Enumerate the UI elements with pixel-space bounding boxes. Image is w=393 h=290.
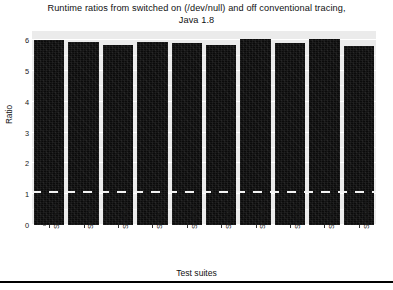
reference-line [32, 191, 376, 193]
x-axis-tick-mark [49, 225, 50, 228]
bottom-divider [0, 281, 393, 283]
y-axis-tick-label: 4 [13, 97, 29, 106]
x-axis-tick-mark [324, 225, 325, 228]
x-axis-label: Test suites [0, 268, 393, 278]
x-axis-tick-mark [221, 225, 222, 228]
x-axis-tick-label: SUITE5 [190, 203, 199, 229]
y-axis-tick-label: 2 [13, 159, 29, 168]
y-axis-tick-label: 6 [13, 36, 29, 45]
bar [103, 45, 133, 225]
x-axis-tick-label: SUITE6 [224, 203, 233, 229]
x-axis-tick-label: SUITE9 [327, 203, 336, 229]
bar [344, 46, 374, 225]
x-axis-tick-mark [290, 225, 291, 228]
x-axis-tick-label: SUITE4 [155, 203, 164, 229]
x-axis-tick-layer: SUITE1SUITE2SUITE3SUITE4SUITE5SUITE6SUIT… [32, 225, 376, 270]
bar [34, 40, 64, 225]
chart-title-line-2: Java 1.8 [0, 15, 393, 27]
x-axis-tick-label: SUITE8 [293, 203, 302, 229]
bar [172, 43, 202, 225]
x-axis-tick-label: SUITE2 [86, 203, 95, 229]
chart-title: Runtime ratios from switched on (/dev/nu… [0, 3, 393, 26]
chart-title-line-1: Runtime ratios from switched on (/dev/nu… [0, 3, 393, 15]
x-axis-tick-mark [84, 225, 85, 228]
bar [68, 42, 98, 225]
x-axis-tick-label: SUITE3 [121, 203, 130, 229]
y-axis-tick-label: 5 [13, 67, 29, 76]
plot-panel [32, 31, 376, 225]
chart-figure: Runtime ratios from switched on (/dev/nu… [0, 0, 393, 290]
x-axis-tick-mark [187, 225, 188, 228]
x-axis-tick-mark [152, 225, 153, 228]
y-axis-tick-label: 0 [13, 221, 29, 230]
x-axis-tick-label: SUITE1 [52, 203, 61, 229]
bar [137, 42, 167, 225]
bar [206, 45, 236, 225]
y-axis-tick-label: 3 [13, 128, 29, 137]
x-axis-tick-mark [118, 225, 119, 228]
x-axis-tick-mark [256, 225, 257, 228]
x-axis-tick-label: SUITE10 [362, 199, 371, 229]
bar [240, 39, 270, 225]
y-axis-tick-label: 1 [13, 190, 29, 199]
x-axis-tick-mark [359, 225, 360, 228]
y-axis-tick-layer: 0123456 [13, 0, 29, 290]
bar [275, 43, 305, 225]
bar [309, 39, 339, 225]
x-axis-tick-label: SUITE7 [258, 203, 267, 229]
